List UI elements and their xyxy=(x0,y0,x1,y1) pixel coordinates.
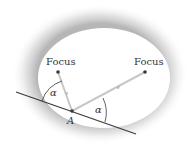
angle-label-right: α xyxy=(95,104,102,115)
ellipse xyxy=(38,28,170,128)
angle-label-left: α xyxy=(50,87,57,98)
ellipse-reflection-diagram: Focus Focus α α A xyxy=(0,0,188,148)
point-a-label: A xyxy=(66,115,74,126)
focus-point-left xyxy=(56,70,60,74)
focus-label-left: Focus xyxy=(46,56,76,67)
focus-point-right xyxy=(143,70,147,74)
point-a xyxy=(70,109,74,113)
focus-label-right: Focus xyxy=(134,56,164,67)
